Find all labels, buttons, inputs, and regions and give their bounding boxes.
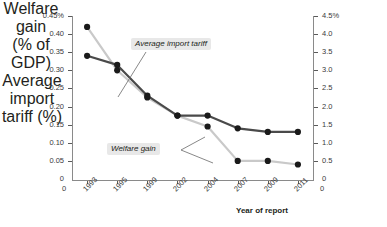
left-tick-label: 0.10 (28, 139, 64, 147)
right-tick-mark (314, 125, 318, 126)
right-tick-label: 1.5 (322, 121, 358, 129)
right-tick-mark (314, 107, 318, 108)
data-point-marker (205, 123, 211, 129)
left-axis-zero-label: 0 (62, 184, 66, 193)
right-tick-label: 2.5 (322, 84, 358, 92)
right-tick-mark (314, 88, 318, 89)
data-point-marker (265, 158, 271, 164)
annotation-average-import-tariff: Average import tariff (131, 38, 211, 50)
right-axis-line (313, 16, 314, 180)
data-point-marker (84, 24, 90, 30)
left-tick-label: 0.05 (28, 157, 64, 165)
right-tick-label: 0 (322, 175, 358, 183)
right-tick-mark (314, 34, 318, 35)
left-tick-label: 0.40 (28, 30, 64, 38)
right-tick-mark (314, 16, 318, 17)
figure-footnote (28, 220, 380, 227)
right-tick-label: 4.5% (322, 12, 358, 20)
left-tick-label: 0 (28, 175, 64, 183)
data-point-marker (295, 129, 301, 135)
right-tick-label: 0.5 (322, 157, 358, 165)
right-tick-label: 2.0 (322, 103, 358, 111)
right-tick-mark (314, 143, 318, 144)
right-tick-mark (314, 161, 318, 162)
right-tick-label: 3.5 (322, 48, 358, 56)
right-tick-label: 4.0 (322, 30, 358, 38)
data-point-marker (144, 93, 150, 99)
data-point-marker (114, 62, 120, 68)
right-axis-title: Average import tariff (%) (0, 72, 64, 126)
data-point-marker (84, 53, 90, 59)
data-point-marker (235, 158, 241, 164)
data-point-marker (205, 113, 211, 119)
right-tick-label: 1.0 (322, 139, 358, 147)
data-point-marker (114, 67, 120, 73)
left-tick-label: 0.20 (28, 103, 64, 111)
left-tick-label: 0.35 (28, 48, 64, 56)
data-point-marker (174, 113, 180, 119)
data-point-marker (265, 129, 271, 135)
right-axis-zero-label: 0 (320, 184, 324, 193)
left-tick-label: 0.30 (28, 66, 64, 74)
right-tick-mark (314, 70, 318, 71)
left-tick-label: 0.15 (28, 121, 64, 129)
chart-figure: Welfare gain (% of GDP) Average import t… (0, 0, 387, 227)
left-tick-label: 0.25 (28, 84, 64, 92)
left-tick-label: 0.45% (28, 12, 64, 20)
right-tick-mark (314, 52, 318, 53)
x-axis-title: Year of report (236, 206, 288, 215)
annotation-welfare-gain: Welfare gain (107, 143, 160, 155)
data-point-marker (295, 161, 301, 167)
right-tick-label: 3.0 (322, 66, 358, 74)
data-point-marker (235, 125, 241, 131)
